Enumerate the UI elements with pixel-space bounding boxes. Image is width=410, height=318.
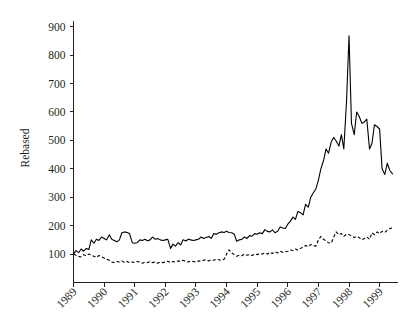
x-tick-label: 1997 (299, 285, 324, 310)
y-axis-title: Rebased (19, 128, 31, 167)
y-tick-label: 100 (48, 248, 66, 260)
plot-area (74, 36, 393, 263)
x-tick-label: 1995 (238, 285, 263, 310)
y-tick-label: 800 (48, 49, 66, 61)
y-tick-label: 900 (48, 21, 66, 33)
chart-figure: Rebased 100200300400500600700800900 1989… (0, 0, 410, 318)
x-tick-label: 1996 (268, 285, 293, 310)
series-line-solid (74, 36, 393, 254)
x-tick-label: 1992 (146, 285, 171, 310)
x-tick-label: 1993 (177, 285, 202, 310)
y-tick-label: 700 (48, 78, 66, 90)
y-tick-label: 600 (48, 106, 66, 118)
y-axis-ticks: 100200300400500600700800900 (48, 21, 73, 260)
line-chart: Rebased 100200300400500600700800900 1989… (0, 0, 410, 318)
x-tick-label: 1989 (54, 285, 79, 310)
x-tick-label: 1999 (360, 285, 385, 310)
y-tick-label: 300 (48, 191, 66, 203)
x-axis-ticks: 1989199019911992199319941995199619971998… (54, 283, 385, 311)
y-tick-label: 200 (48, 220, 66, 232)
x-tick-label: 1990 (85, 285, 110, 310)
x-tick-label: 1998 (330, 285, 355, 310)
y-tick-label: 500 (48, 134, 66, 146)
x-tick-label: 1991 (115, 285, 140, 310)
y-axis-title-group: Rebased (19, 128, 31, 167)
y-tick-label: 400 (48, 163, 66, 175)
x-tick-label: 1994 (207, 285, 232, 310)
